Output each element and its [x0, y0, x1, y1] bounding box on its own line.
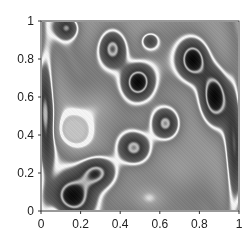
y-tick-label: 0.2: [17, 166, 34, 180]
x-tick-label: 0.8: [191, 217, 208, 231]
x-tick-label: 0.4: [112, 217, 129, 231]
x-tick-label: 0: [38, 217, 45, 231]
x-tick-label: 0.2: [72, 217, 89, 231]
y-tick-label: 0.8: [17, 52, 34, 66]
density-plot: 00.20.40.60.81 00.20.40.60.81: [0, 0, 252, 240]
y-tick-label: 0.4: [17, 128, 34, 142]
x-tick-label: 0.6: [151, 217, 168, 231]
plot-area: [42, 22, 238, 210]
x-axis: 00.20.40.60.81: [38, 211, 243, 231]
y-tick-label: 0.6: [17, 90, 34, 104]
x-tick-label: 1: [236, 217, 243, 231]
y-tick-label: 0: [27, 204, 34, 218]
y-axis: 00.20.40.60.81: [17, 14, 41, 218]
density-field: [42, 22, 238, 210]
y-tick-label: 1: [27, 14, 34, 28]
